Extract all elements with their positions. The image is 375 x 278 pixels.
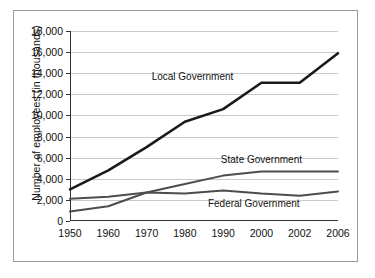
- series-lines-group: [70, 31, 338, 221]
- y-axis-tick-label: 8,000: [37, 131, 63, 143]
- series-label-federal-government: Federal Government: [208, 197, 300, 208]
- y-axis-tick-label: 14,000: [31, 67, 63, 79]
- y-axis-tick-label: 18,000: [31, 25, 63, 37]
- y-axis-tick-label: 10,000: [31, 109, 63, 121]
- y-axis-tick-label: 16,000: [31, 46, 63, 58]
- x-axis-tick-label: 1960: [97, 227, 120, 239]
- x-axis-tick-label: 1950: [58, 227, 81, 239]
- plot-area: 02,0004,0006,0008,00010,00012,00014,0001…: [70, 31, 338, 221]
- series-label-state-government: State Government: [221, 153, 302, 164]
- y-axis-tick-mark: [66, 221, 70, 222]
- y-axis-tick-label: 0: [57, 215, 63, 227]
- x-axis-tick-label: 1990: [211, 227, 234, 239]
- x-axis-tick-label: 2002: [288, 227, 311, 239]
- series-label-local-government: Local Government: [152, 71, 234, 82]
- y-axis-tick-label: 12,000: [31, 88, 63, 100]
- x-axis-tick-label: 2006: [326, 227, 349, 239]
- chart-figure: Number of employees (in thousands) 02,00…: [13, 10, 358, 262]
- y-axis-tick-label: 2,000: [37, 194, 63, 206]
- x-axis-tick-label: 1970: [135, 227, 158, 239]
- x-axis-tick-label: 2000: [250, 227, 273, 239]
- y-axis-tick-label: 6,000: [37, 152, 63, 164]
- y-axis-tick-label: 4,000: [37, 173, 63, 185]
- x-axis-tick-label: 1980: [173, 227, 196, 239]
